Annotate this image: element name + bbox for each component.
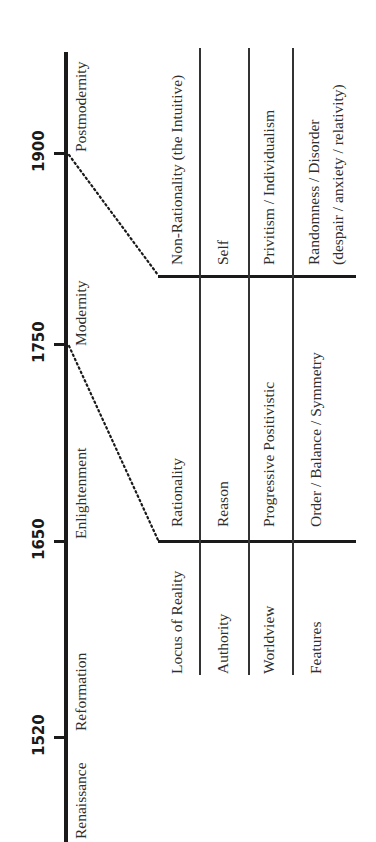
modernity-locus: Rationality — [168, 458, 186, 527]
modernity-worldview: Progressive Positivistic — [260, 382, 278, 527]
row-label-worldview: Worldview — [260, 606, 278, 675]
table-divider-modernity — [158, 540, 356, 543]
row-label-authority: Authority — [214, 614, 232, 674]
postmodernity-worldview: Privitism / Individualism — [260, 110, 278, 265]
postmodernity-features-line1: Randomness / Disorder — [303, 119, 325, 265]
modernity-authority: Reason — [214, 481, 232, 527]
column-divider-2 — [248, 48, 250, 675]
postmodernity-authority: Self — [214, 240, 232, 265]
postmodernity-features-line2: (despair / anxiety / relativity) — [327, 84, 349, 265]
column-divider-3 — [292, 48, 294, 675]
table-divider-postmodernity — [158, 275, 356, 278]
postmodernity-locus: Non-Rationality (the Intuitive) — [168, 75, 186, 265]
column-divider-1 — [199, 48, 201, 675]
row-label-features: Features — [307, 621, 325, 674]
modernity-features: Order / Balance / Symmetry — [307, 352, 325, 527]
row-label-locus-of-reality: Locus of Reality — [168, 571, 186, 674]
